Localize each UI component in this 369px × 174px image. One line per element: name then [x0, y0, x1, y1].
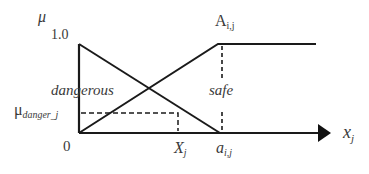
fuzzy-membership-diagram: μ 1.0 0 dangerous safe μdanger_j Ai,j Xj…: [0, 0, 369, 174]
A-ij-label: Ai,j: [215, 13, 235, 31]
dangerous-label: dangerous: [51, 83, 114, 98]
safe-label: safe: [209, 83, 233, 98]
y-axis-label: μ: [38, 9, 46, 25]
y-max-tick: 1.0: [51, 28, 69, 42]
X-j-label: Xj: [174, 140, 187, 158]
x-axis-label: xj: [343, 123, 354, 144]
mu-danger-label: μdanger_j: [14, 102, 58, 120]
origin-label: 0: [63, 139, 71, 154]
x-axis-arrowhead-icon: [318, 124, 331, 142]
a-ij-label: ai,j: [216, 140, 232, 158]
